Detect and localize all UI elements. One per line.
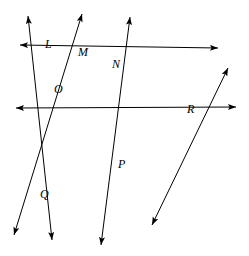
- point-label-r: R: [187, 103, 194, 115]
- line-through-O-N-R: [16, 107, 236, 108]
- geometry-canvas: [0, 0, 249, 256]
- point-label-n: N: [112, 58, 120, 70]
- point-label-q: Q: [40, 188, 49, 200]
- point-label-p: P: [118, 158, 125, 170]
- geometry-figure: LMNOPQR: [0, 0, 249, 256]
- line-through-Q-P-R: [152, 68, 228, 225]
- line-through-N-P: [101, 17, 130, 245]
- point-label-o: O: [54, 83, 63, 95]
- point-label-l: L: [45, 38, 52, 50]
- point-label-m: M: [78, 46, 88, 58]
